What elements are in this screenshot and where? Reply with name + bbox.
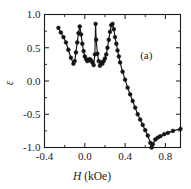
x-axis-title: H (kOe) bbox=[72, 170, 111, 183]
data-point bbox=[166, 131, 170, 135]
data-point bbox=[128, 92, 132, 96]
data-point bbox=[111, 22, 115, 26]
data-point bbox=[80, 42, 84, 46]
y-tick-label: -0.5 bbox=[23, 108, 41, 120]
data-point bbox=[106, 46, 110, 50]
x-tick-label: 0.4 bbox=[118, 150, 132, 162]
data-point bbox=[158, 134, 162, 138]
data-series-markers bbox=[57, 22, 183, 149]
data-point bbox=[104, 53, 108, 57]
data-point bbox=[136, 112, 140, 116]
data-point bbox=[62, 35, 66, 39]
data-point bbox=[113, 35, 117, 39]
data-point bbox=[121, 70, 125, 74]
data-point bbox=[117, 54, 121, 58]
data-point bbox=[94, 22, 98, 26]
data-point bbox=[92, 63, 96, 67]
data-point bbox=[118, 60, 122, 64]
data-point bbox=[151, 142, 155, 146]
panel-label-a: (a) bbox=[140, 49, 153, 62]
y-tick-label: -1.0 bbox=[23, 141, 41, 153]
data-point bbox=[114, 42, 118, 46]
data-point bbox=[75, 41, 79, 45]
chart-canvas: -0.40.00.40.8 1.00.50.0-0.5-1.0 (a) H (k… bbox=[0, 0, 191, 189]
data-point bbox=[116, 49, 120, 53]
data-point bbox=[141, 123, 145, 127]
data-point bbox=[162, 132, 166, 136]
data-point bbox=[95, 52, 99, 56]
data-point bbox=[82, 49, 86, 53]
y-tick-label: 1.0 bbox=[27, 8, 41, 20]
x-tick-label: 0.8 bbox=[159, 150, 173, 162]
data-point bbox=[171, 129, 175, 133]
data-point bbox=[103, 56, 107, 60]
data-point bbox=[126, 86, 130, 90]
x-axis-title-unit: (kOe) bbox=[84, 170, 111, 183]
data-point bbox=[64, 41, 68, 45]
data-point bbox=[94, 38, 98, 42]
x-axis-tick-labels: -0.40.00.40.8 bbox=[36, 150, 173, 162]
data-point bbox=[78, 25, 82, 29]
data-point bbox=[74, 51, 78, 55]
y-axis-title: ε bbox=[3, 80, 15, 85]
y-axis-major-ticks bbox=[45, 15, 181, 148]
data-point bbox=[79, 33, 83, 37]
data-point bbox=[112, 27, 116, 31]
data-point bbox=[73, 59, 77, 63]
x-axis-major-ticks bbox=[45, 15, 166, 148]
data-point bbox=[133, 106, 137, 110]
y-tick-label: 0.0 bbox=[27, 75, 41, 87]
data-point bbox=[131, 99, 135, 103]
data-point bbox=[138, 118, 142, 122]
y-axis-tick-labels: 1.00.50.0-0.5-1.0 bbox=[23, 8, 41, 153]
y-tick-label: 0.5 bbox=[27, 42, 41, 54]
data-point bbox=[69, 56, 73, 60]
data-point bbox=[107, 38, 111, 42]
data-point bbox=[57, 26, 61, 30]
data-point bbox=[59, 31, 63, 35]
data-point bbox=[123, 78, 127, 82]
data-point bbox=[146, 134, 150, 138]
x-tick-label: 0.0 bbox=[78, 150, 92, 162]
figure-panel-a: -0.40.00.40.8 1.00.50.0-0.5-1.0 (a) H (k… bbox=[0, 0, 191, 189]
x-axis-minor-ticks bbox=[65, 15, 146, 148]
data-point bbox=[179, 127, 183, 131]
data-point bbox=[143, 128, 147, 132]
y-axis-minor-ticks bbox=[45, 31, 181, 131]
plot-frame bbox=[45, 15, 181, 148]
data-point bbox=[108, 30, 112, 34]
data-point bbox=[66, 48, 70, 52]
